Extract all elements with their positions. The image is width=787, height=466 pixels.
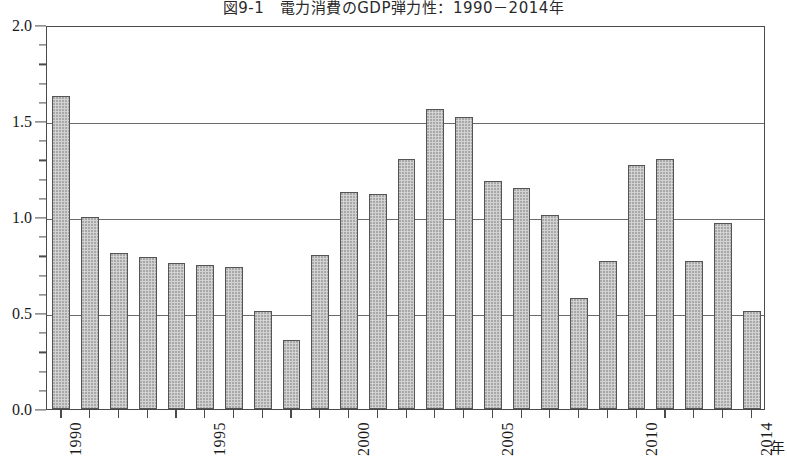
x-tick: [607, 410, 608, 418]
y-tick-major: [35, 409, 46, 410]
x-tick-label: 2010: [643, 422, 661, 456]
x-tick: [751, 410, 752, 418]
bar-series: [47, 27, 764, 409]
bar: [110, 253, 128, 409]
x-tick: [319, 410, 320, 418]
y-tick-minor: [39, 64, 46, 65]
bar: [52, 96, 70, 409]
y-tick-label: 0.0: [12, 401, 32, 419]
bar: [484, 181, 502, 409]
y-tick-major: [35, 217, 46, 218]
x-tick-label: 2000: [355, 422, 373, 456]
y-tick-label: 0.5: [12, 305, 32, 323]
bar: [139, 257, 157, 409]
x-tick-label: 1990: [67, 422, 85, 456]
y-tick-minor: [39, 102, 46, 103]
y-tick-minor: [39, 45, 46, 46]
bar: [685, 261, 703, 409]
x-axis: 199019952000200520102014: [46, 410, 765, 466]
x-tick: [636, 410, 637, 418]
y-tick-minor: [39, 294, 46, 295]
x-tick: [262, 410, 263, 418]
bar: [311, 255, 329, 409]
x-tick: [290, 410, 291, 418]
x-tick: [406, 410, 407, 418]
bar: [455, 117, 473, 409]
x-tick: [89, 410, 90, 418]
x-tick: [60, 410, 61, 418]
x-tick: [693, 410, 694, 418]
y-tick-minor: [39, 179, 46, 180]
bar: [599, 261, 617, 409]
y-tick-minor: [39, 352, 46, 353]
x-tick: [233, 410, 234, 418]
y-tick-minor: [39, 333, 46, 334]
chart-title: 図9-1 電力消費のGDP弾力性：1990－2014年: [0, 0, 787, 17]
bar: [81, 217, 99, 409]
y-tick-major: [35, 25, 46, 26]
bar: [743, 311, 761, 409]
bar: [513, 188, 531, 409]
bar: [168, 263, 186, 409]
x-tick: [722, 410, 723, 418]
x-tick: [434, 410, 435, 418]
bar: [570, 298, 588, 409]
y-tick-minor: [39, 371, 46, 372]
x-tick: [549, 410, 550, 418]
x-tick: [147, 410, 148, 418]
x-tick: [377, 410, 378, 418]
y-axis: 2.01.51.00.50.0: [0, 26, 46, 410]
y-tick-minor: [39, 390, 46, 391]
y-tick-minor: [39, 160, 46, 161]
y-tick-minor: [39, 83, 46, 84]
y-tick-label: 2.0: [12, 17, 32, 35]
bar: [196, 265, 214, 409]
y-tick-label: 1.5: [12, 113, 32, 131]
y-tick-major: [35, 313, 46, 314]
bar: [714, 223, 732, 409]
x-axis-title: 年: [770, 436, 785, 457]
x-tick: [348, 410, 349, 418]
y-tick-minor: [39, 198, 46, 199]
x-tick: [463, 410, 464, 418]
y-tick-minor: [39, 237, 46, 238]
bar: [283, 340, 301, 409]
x-tick: [578, 410, 579, 418]
chart-figure: 図9-1 電力消費のGDP弾力性：1990－2014年 2.01.51.00.5…: [0, 0, 787, 466]
bar: [369, 194, 387, 409]
x-tick: [118, 410, 119, 418]
y-tick-label: 1.0: [12, 209, 32, 227]
x-tick-label: 1995: [211, 422, 229, 456]
x-tick-label: 2005: [499, 422, 517, 456]
plot-area: [46, 26, 765, 410]
y-tick-minor: [39, 141, 46, 142]
bar: [254, 311, 272, 409]
bar: [340, 192, 358, 409]
bar: [628, 165, 646, 409]
x-tick: [204, 410, 205, 418]
y-tick-minor: [39, 275, 46, 276]
y-tick-major: [35, 121, 46, 122]
y-tick-minor: [39, 256, 46, 257]
bar: [541, 215, 559, 409]
bar: [656, 159, 674, 409]
x-tick: [664, 410, 665, 418]
x-tick: [521, 410, 522, 418]
bar: [426, 109, 444, 409]
bar: [398, 159, 416, 409]
x-tick: [175, 410, 176, 418]
x-tick: [492, 410, 493, 418]
bar: [225, 267, 243, 409]
